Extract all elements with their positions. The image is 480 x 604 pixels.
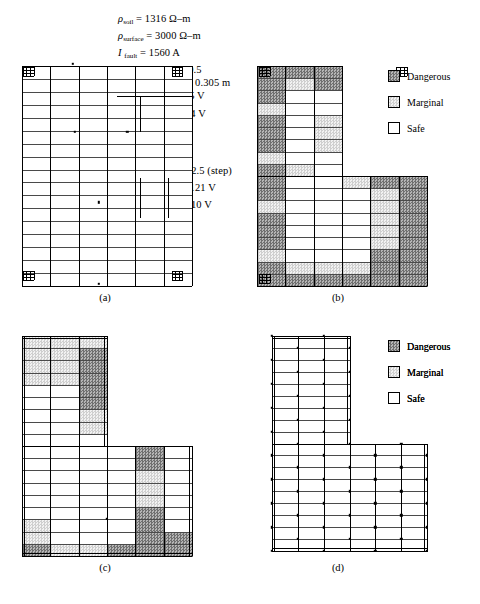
cell-safe [50,195,79,209]
legend-swatch-safe [388,392,400,404]
cell-safe [285,249,314,262]
ground-rod [426,478,428,480]
conductor-vertical [192,66,193,286]
ground-rod [73,131,75,133]
conductor-vertical [262,67,263,76]
cell-safe [135,157,164,171]
cell-safe [22,385,51,398]
cell-safe [107,446,136,459]
conductor-vertical [50,66,51,286]
cell-safe [135,131,164,145]
cell-dangerous [257,176,286,189]
cell-safe [22,208,51,222]
cell-marginal [342,262,371,275]
conductor-horizontal [272,420,350,421]
cell-safe [79,247,108,261]
cell-safe [22,105,51,119]
conductor-horizontal [257,78,342,79]
ground-rod [374,454,376,456]
ground-rod [271,430,273,432]
cell-marginal [135,483,164,496]
cell-safe [50,182,79,196]
cell-safe [50,247,79,261]
conductor-horizontal [272,432,350,433]
cell-safe [375,503,401,516]
cell-safe [22,247,51,261]
ground-rod [297,395,299,397]
cell-safe [314,103,343,116]
cell-safe [79,79,108,93]
ground-rod [271,502,273,504]
ground-rod [271,526,273,528]
cell-safe [22,157,51,171]
cell-safe [314,237,343,250]
ground-rod [106,517,108,519]
conductor-horizontal [259,277,270,278]
cell-safe [350,491,376,504]
conductor-horizontal [172,274,183,275]
legend-swatch-marginal [388,366,400,378]
cell-safe [50,221,79,235]
cell-safe [164,118,193,132]
cell-safe [375,491,401,504]
ground-rod [297,442,299,444]
cell-safe [22,92,51,106]
cell-safe [79,470,108,483]
conductor-vertical [274,336,275,551]
conductor-horizontal [22,556,192,557]
conductor-horizontal [172,76,183,77]
cell-safe [314,90,343,103]
ground-rod [322,430,324,432]
cell-safe [50,495,79,508]
cell-safe [50,532,79,545]
cell-safe [79,532,108,545]
cell-safe [79,483,108,496]
conductor-vertical [23,271,24,280]
cell-safe [285,152,314,165]
conductor-vertical [324,336,325,551]
cell-dangerous [370,249,399,262]
cell-safe [342,249,371,262]
cell-safe [79,519,108,532]
ground-rod [400,442,402,444]
conductor-vertical [424,444,425,552]
cell-safe [107,79,136,93]
cell-safe [22,507,51,520]
cell-safe [135,66,164,80]
conductor-horizontal [22,397,107,398]
conductor-horizontal [257,90,342,91]
cell-safe [107,105,136,119]
cell-safe [50,208,79,222]
cell-safe [164,221,193,235]
legend-swatch-dangerous [388,340,400,352]
conductor-vertical [26,67,27,76]
cell-marginal [257,200,286,213]
cell-safe [314,152,343,165]
param-i-fault: I fault = 1560 A [118,46,288,63]
legend-swatch-dangerous [388,70,400,82]
cell-safe [50,144,79,158]
cell-safe [285,213,314,226]
ground-rod [271,478,273,480]
cell-safe [50,66,79,80]
cell-safe [272,372,298,385]
conductor-vertical [270,67,271,76]
conductor-vertical [285,66,286,286]
cell-safe [272,408,298,421]
cell-safe [79,66,108,80]
conductor-horizontal [22,409,107,410]
cell-safe [50,409,79,422]
cell-safe [285,237,314,250]
cell-safe [50,483,79,496]
ground-rod [400,466,402,468]
conductor-vertical [266,274,267,283]
conductor-horizontal [259,73,270,74]
cell-safe [350,539,376,552]
conductor-vertical [164,66,165,286]
cell-safe [298,527,324,540]
cell-marginal [342,176,371,189]
conductor-vertical [79,66,80,286]
cell-safe [79,92,108,106]
cell-safe [135,234,164,248]
cell-dangerous [257,225,286,238]
